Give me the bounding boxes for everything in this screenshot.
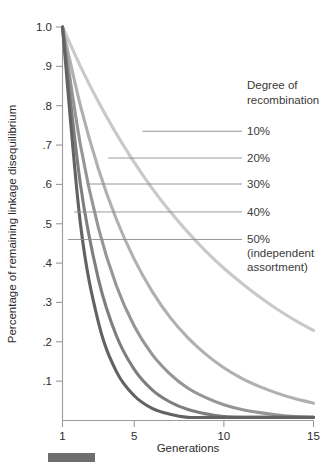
legend-label-20pct: 20% xyxy=(247,152,270,164)
legend-note-line2: assortment) xyxy=(247,261,308,273)
y-tick-label: .2 xyxy=(42,336,52,348)
legend-title-line2: recombination xyxy=(247,94,319,106)
legend-leader-lines xyxy=(68,131,242,239)
y-tick-label: .4 xyxy=(42,257,52,269)
legend-title-line1: Degree of xyxy=(247,79,298,91)
legend-label-40pct: 40% xyxy=(247,206,270,218)
y-axis-title: Percentage of remaining linkage disequil… xyxy=(6,105,18,343)
x-tick-label: 5 xyxy=(131,430,137,442)
y-tick-group: 1.0.9.8.7.6.5.4.3.2.1 xyxy=(36,21,63,387)
y-tick-label: .6 xyxy=(42,178,52,190)
chart-container: 1.0.9.8.7.6.5.4.3.2.1 151015 Percentage … xyxy=(0,0,329,467)
legend-label-10pct: 10% xyxy=(247,125,270,137)
y-tick-label: .3 xyxy=(42,296,52,308)
x-tick-label: 15 xyxy=(307,430,320,442)
y-tick-label: .5 xyxy=(42,218,52,230)
legend-note-line1: (independent xyxy=(247,247,315,259)
linkage-disequilibrium-decay-chart: 1.0.9.8.7.6.5.4.3.2.1 151015 Percentage … xyxy=(0,0,329,467)
y-tick-label: 1.0 xyxy=(36,21,52,33)
y-tick-label: .1 xyxy=(42,375,52,387)
x-tick-label: 1 xyxy=(59,430,65,442)
y-tick-label: .8 xyxy=(42,100,52,112)
legend-label-50pct: 50% xyxy=(247,233,270,245)
x-tick-label: 10 xyxy=(217,430,230,442)
legend-label-30pct: 30% xyxy=(247,178,270,190)
figure-marker-bar xyxy=(48,453,95,462)
legend-labels-group: 10%20%30%40%50% xyxy=(247,125,270,245)
x-axis-title: Generations xyxy=(157,442,220,454)
x-tick-group: 151015 xyxy=(59,421,320,443)
y-tick-label: .7 xyxy=(42,139,52,151)
y-tick-label: .9 xyxy=(42,60,52,72)
